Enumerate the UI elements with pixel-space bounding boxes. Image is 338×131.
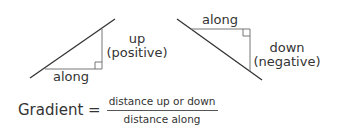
positive-label: (positive) xyxy=(106,46,168,60)
gradient-diagram: along up (positive) along down (negative… xyxy=(0,0,338,131)
negative-label: (negative) xyxy=(252,55,322,69)
negative-along-label: along xyxy=(202,13,238,27)
negative-slope-line xyxy=(177,19,262,80)
formula-numerator: distance up or down xyxy=(107,95,218,108)
formula-denominator: distance along xyxy=(122,113,203,126)
up-label: up xyxy=(106,32,168,46)
fraction-bar xyxy=(107,110,218,111)
positive-vertical-label: up (positive) xyxy=(106,32,168,60)
gradient-formula: Gradient = distance up or down distance … xyxy=(18,92,218,128)
negative-gradient-triangle xyxy=(177,19,262,80)
formula-fraction: distance up or down distance along xyxy=(107,95,218,126)
right-angle-marker-icon xyxy=(243,29,250,36)
down-label: down xyxy=(252,41,322,55)
right-angle-marker-icon xyxy=(95,62,102,69)
formula-lhs: Gradient = xyxy=(18,101,101,119)
positive-along-label: along xyxy=(53,70,89,84)
negative-vertical-label: down (negative) xyxy=(252,41,322,69)
